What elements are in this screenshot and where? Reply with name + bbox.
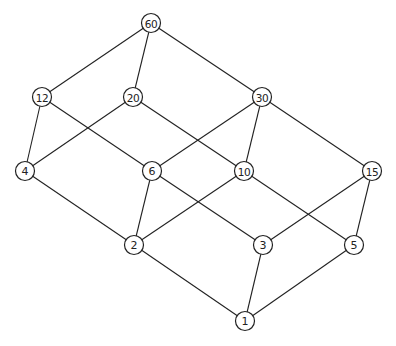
edge-12-6: [42, 97, 152, 171]
edge-5-1: [245, 245, 354, 321]
node-30: 30: [253, 88, 272, 107]
edge-30-10: [244, 97, 262, 171]
edge-2-1: [134, 245, 245, 321]
node-3: 3: [254, 236, 273, 255]
edge-4-2: [25, 171, 134, 245]
node-2: 2: [125, 236, 144, 255]
node-4: 4: [16, 162, 35, 181]
edge-12-4: [25, 97, 42, 171]
node-10: 10: [235, 162, 254, 181]
edge-3-1: [245, 245, 263, 321]
node-label: 1: [242, 315, 249, 328]
edge-15-3: [263, 171, 372, 245]
node-6: 6: [143, 162, 162, 181]
node-label: 20: [127, 92, 139, 104]
edge-6-3: [152, 171, 263, 245]
node-5: 5: [345, 236, 364, 255]
node-15: 15: [363, 162, 382, 181]
node-label: 12: [36, 92, 48, 104]
node-label: 10: [238, 166, 250, 178]
edge-30-15: [262, 97, 372, 171]
node-12: 12: [33, 88, 52, 107]
edge-60-12: [42, 23, 151, 97]
edge-60-30: [151, 23, 262, 97]
node-label: 2: [131, 239, 138, 252]
edges-layer: [25, 23, 372, 321]
node-label: 5: [351, 239, 358, 252]
edge-20-4: [25, 97, 133, 171]
edge-10-5: [244, 171, 354, 245]
node-label: 30: [256, 92, 268, 104]
node-label: 3: [260, 239, 267, 252]
node-label: 15: [366, 166, 378, 178]
node-label: 60: [145, 18, 157, 30]
node-label: 6: [149, 165, 156, 178]
node-60: 60: [142, 14, 161, 33]
edge-10-2: [134, 171, 244, 245]
edge-60-20: [133, 23, 151, 97]
edge-30-6: [152, 97, 262, 171]
hasse-diagram: 601220304610152351: [0, 0, 396, 346]
node-1: 1: [236, 312, 255, 331]
edge-15-5: [354, 171, 372, 245]
nodes-layer: 601220304610152351: [16, 14, 382, 331]
edge-20-10: [133, 97, 244, 171]
node-20: 20: [124, 88, 143, 107]
edge-6-2: [134, 171, 152, 245]
node-label: 4: [22, 165, 29, 178]
